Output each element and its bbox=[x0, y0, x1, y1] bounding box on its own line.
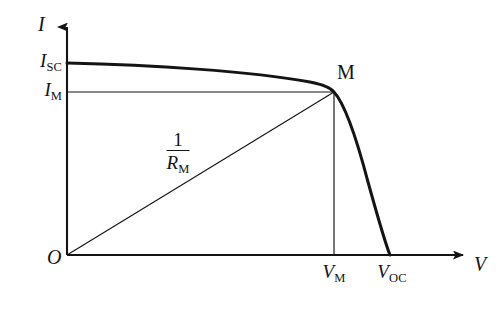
slope-denominator-subscript: M bbox=[178, 162, 189, 176]
xtick-label-vm: VM bbox=[323, 262, 346, 284]
ytick-label-isc: ISC bbox=[40, 51, 62, 73]
slope-denominator: RM bbox=[167, 151, 190, 175]
xtick-label-vm-subscript: M bbox=[334, 271, 345, 285]
ytick-label-im: IM bbox=[44, 80, 62, 102]
ytick-label-isc-subscript: SC bbox=[46, 60, 62, 74]
iv-characteristic-figure: I V O ISC IM VM VOC M 1 RM bbox=[0, 0, 502, 312]
max-power-point-label: M bbox=[337, 62, 355, 82]
load-line-slope-label: 1 RM bbox=[167, 130, 190, 175]
load-line bbox=[67, 92, 334, 255]
axis-label-current: I bbox=[38, 14, 45, 34]
plot-canvas bbox=[0, 0, 502, 312]
axis-label-voltage: V bbox=[474, 254, 486, 274]
slope-numerator: 1 bbox=[167, 130, 190, 151]
xtick-label-voc-subscript: OC bbox=[389, 271, 407, 285]
xtick-label-voc: VOC bbox=[377, 262, 406, 284]
origin-label: O bbox=[47, 247, 61, 267]
ytick-label-im-subscript: M bbox=[51, 89, 62, 103]
